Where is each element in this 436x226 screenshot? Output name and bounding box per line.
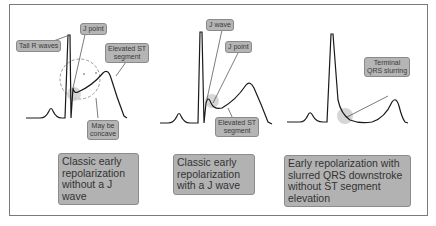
label-elevated-st-1: Elevated ST segment bbox=[105, 43, 149, 63]
label-may-be-concave: May be concave bbox=[87, 120, 119, 140]
caption-panel-2: Classic early repolarization with a J wa… bbox=[173, 154, 255, 195]
caption-panel-1: Classic early repolarization without a J… bbox=[58, 153, 139, 205]
panel-3-waveform bbox=[287, 34, 408, 124]
label-j-wave: J wave bbox=[206, 19, 234, 31]
j-point-highlight bbox=[67, 87, 81, 101]
label-elevated-st-2: Elevated ST segment bbox=[215, 117, 259, 137]
label-j-point-1: J point bbox=[80, 23, 107, 35]
label-j-point-2: J point bbox=[225, 41, 252, 53]
label-terminal-qrs-slurring: Terminal QRS slurring bbox=[364, 57, 410, 77]
caption-panel-3: Early repolarization with slurred QRS do… bbox=[284, 155, 411, 207]
ecg-trace-2 bbox=[160, 32, 272, 124]
label-tall-r-waves: Tall R waves bbox=[16, 40, 61, 52]
panel-2-waveform bbox=[160, 30, 272, 124]
